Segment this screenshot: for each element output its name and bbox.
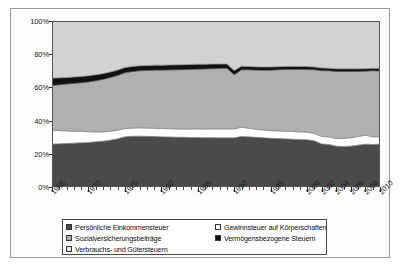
legend-swatch-icon — [66, 235, 72, 241]
legend-swatch-icon — [66, 224, 72, 230]
y-axis-tick-label: 40% — [34, 116, 49, 125]
chart-legend: Persönliche Einkommensteuer Sozialversic… — [62, 219, 327, 255]
legend-item-personal-income-tax: Persönliche Einkommensteuer — [66, 222, 215, 232]
legend-swatch-icon — [66, 246, 72, 252]
legend-item-corporate-profit-tax: Gewinnsteuer auf Körperschaften — [215, 222, 323, 232]
legend-item-wealth-taxes: Vermögensbezogene Steuern — [215, 233, 323, 243]
plot-area — [52, 21, 380, 187]
stacked-area-series — [52, 21, 380, 187]
legend-label: Vermögensbezogene Steuern — [224, 234, 315, 243]
y-axis-tick-label: 0% — [38, 183, 49, 192]
legend-label: Gewinnsteuer auf Körperschaften — [224, 223, 326, 232]
y-axis-tick-label: 20% — [34, 149, 49, 158]
y-axis-tick-label: 100% — [30, 17, 49, 26]
chart-screenshot: 0%20%40%60%80%100% 196519701975198019851… — [0, 0, 403, 268]
legend-item-social-contributions: Sozialversicherungsbeiträge — [66, 233, 215, 243]
y-axis-tick-label: 80% — [34, 50, 49, 59]
legend-label: Verbrauchs- und Gütersteuern — [75, 245, 168, 254]
y-axis-tick-label: 60% — [34, 83, 49, 92]
legend-label: Persönliche Einkommensteuer — [75, 223, 168, 232]
legend-item-consumption-taxes: Verbrauchs- und Gütersteuern — [66, 244, 215, 254]
x-axis-labels: 1965197019751980198519901995200020022004… — [52, 190, 380, 220]
y-axis: 0%20%40%60%80%100% — [14, 21, 49, 187]
legend-swatch-icon — [215, 235, 221, 241]
legend-label: Sozialversicherungsbeiträge — [75, 234, 161, 243]
legend-swatch-icon — [215, 224, 221, 230]
